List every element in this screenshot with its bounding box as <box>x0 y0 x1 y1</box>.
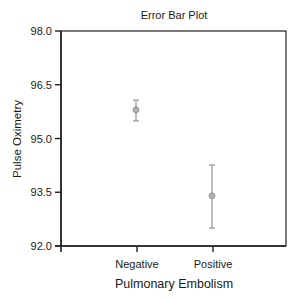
plot-frame <box>61 31 286 246</box>
y-tick-label: 96.5 <box>31 79 52 91</box>
y-axis-ticks: 92.093.595.096.598.0 <box>31 25 61 252</box>
error-bar-negative <box>133 100 139 121</box>
y-tick-label: 93.5 <box>31 186 52 198</box>
mean-marker <box>209 193 215 199</box>
x-tick-label: Positive <box>194 258 233 270</box>
x-axis-ticks: NegativePositive <box>115 246 232 270</box>
y-tick-label: 98.0 <box>31 25 52 37</box>
error-bar-chart: Error Bar Plot 92.093.595.096.598.0 Nega… <box>0 0 300 298</box>
chart-title: Error Bar Plot <box>141 9 208 21</box>
x-axis-label: Pulmonary Embolism <box>115 277 233 291</box>
error-bars <box>133 100 215 228</box>
y-axis-label: Pulse Oximetry <box>11 100 23 178</box>
error-bar-positive <box>209 165 215 228</box>
y-tick-label: 92.0 <box>31 240 52 252</box>
y-tick-label: 95.0 <box>31 133 52 145</box>
x-tick-label: Negative <box>115 258 158 270</box>
mean-marker <box>133 107 139 113</box>
